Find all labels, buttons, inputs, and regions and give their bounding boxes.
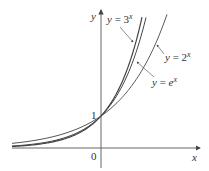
curve-yex	[12, 17, 146, 146]
svg-text:y = ex: y = ex	[151, 75, 178, 88]
svg-text:y = 2x: y = 2x	[164, 50, 191, 63]
x-axis-label: x	[191, 151, 197, 163]
y-axis-label: y	[90, 10, 96, 22]
origin-label: 0	[91, 150, 97, 162]
y-tick-1: 1	[91, 109, 97, 121]
curve-y3x	[12, 17, 142, 146]
exponential-chart: y x 0 1 y = 3x y = 2x y = ex	[0, 0, 209, 171]
svg-text:y = 3x: y = 3x	[106, 12, 133, 25]
label-2x: y = 2x	[157, 45, 191, 63]
label-3x: y = 3x	[106, 12, 133, 42]
curve-y2x	[12, 14, 167, 143]
label-ex: y = ex	[137, 62, 178, 88]
